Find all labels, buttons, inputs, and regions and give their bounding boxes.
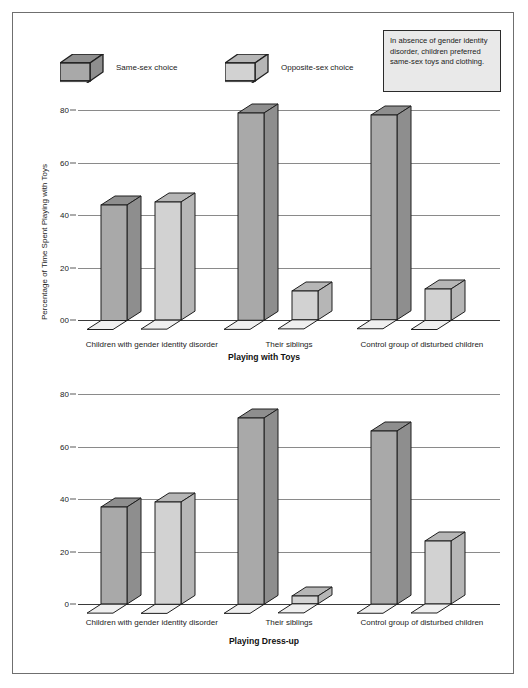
gridline [78, 447, 500, 448]
y-tick-label: 20 [60, 263, 69, 272]
y-tick-label: 20 [60, 547, 69, 556]
bar-outline [425, 532, 467, 615]
bar-toys-g1-s1 [292, 291, 318, 320]
y-tick-mark [70, 267, 76, 268]
y-tick-label: 60 [60, 158, 69, 167]
y-tick-label: 80 [60, 390, 69, 399]
category-label: Control group of disturbed children [361, 618, 484, 627]
bar-outline [101, 498, 143, 615]
gridline [78, 163, 500, 164]
category-label: Their siblings [265, 618, 312, 627]
gridline [78, 394, 500, 395]
chart-title-dress: Playing Dress-up [0, 636, 528, 646]
plot-area-dress: 020406080 [78, 394, 500, 604]
bar-outline [292, 587, 334, 615]
y-axis-title-toys: Percentage of Time Spent Playing with To… [40, 164, 49, 320]
bar-toys-g0-s0 [101, 205, 127, 321]
y-tick-label: 0 [65, 600, 69, 609]
bar-toys-g2-s1 [425, 289, 451, 321]
bar-outline [292, 282, 334, 331]
plot-area-toys: 0020406080 [78, 110, 500, 320]
bar-dress-g2-s1 [425, 541, 451, 604]
bar-dress-g1-s1 [292, 596, 318, 604]
chart-panel-toys: 0020406080 Percentage of Time Spent Play… [0, 0, 528, 370]
y-tick-label: 40 [60, 211, 69, 220]
bar-toys-g0-s1 [155, 202, 181, 320]
y-tick-mark [70, 110, 76, 111]
bar-toys-g1-s0 [238, 113, 264, 320]
y-tick-mark [70, 604, 76, 605]
y-tick-mark [70, 394, 76, 395]
y-tick-mark [70, 320, 76, 321]
bar-dress-g0-s0 [101, 507, 127, 604]
bar-outline [101, 196, 143, 332]
y-tick-label: 40 [60, 495, 69, 504]
category-label: Their siblings [265, 340, 312, 349]
y-tick-mark [70, 499, 76, 500]
bar-dress-g1-s0 [238, 418, 264, 604]
y-tick-mark [70, 215, 76, 216]
bar-outline [238, 409, 280, 615]
bar-outline [155, 493, 197, 615]
y-tick-mark [70, 162, 76, 163]
chart-title-toys: Playing with Toys [0, 352, 528, 362]
bar-outline [155, 193, 197, 331]
bar-outline [238, 104, 280, 331]
bar-dress-g0-s1 [155, 502, 181, 604]
category-label: Children with gender identity disorder [86, 340, 218, 349]
y-tick-label: 80 [60, 106, 69, 115]
bar-toys-g2-s0 [371, 115, 397, 320]
bar-dress-g2-s0 [371, 431, 397, 604]
chart-panel-dress: 020406080 Percentage of Time Spent Playi… [0, 366, 528, 688]
y-tick-mark [70, 551, 76, 552]
gridline [78, 110, 500, 111]
bar-outline [371, 422, 413, 615]
bar-outline [371, 106, 413, 331]
category-label: Control group of disturbed children [361, 340, 484, 349]
y-tick-label: 00 [60, 316, 69, 325]
category-label: Children with gender identity disorder [86, 618, 218, 627]
figure-root: Same-sex choice Opposite-sex choice In a… [0, 0, 528, 688]
y-tick-label: 60 [60, 442, 69, 451]
y-tick-mark [70, 446, 76, 447]
bar-outline [425, 280, 467, 332]
